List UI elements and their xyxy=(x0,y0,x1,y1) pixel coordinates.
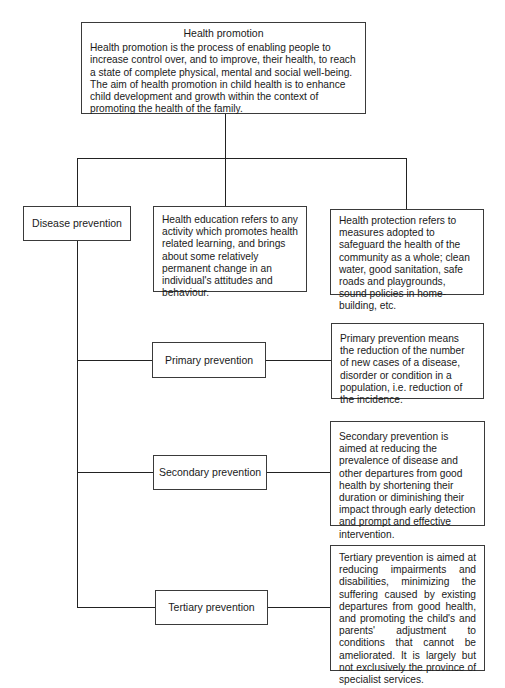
primary-prevention-text: Primary prevention means the reduction o… xyxy=(340,333,475,406)
connector-secondary-to-desc xyxy=(267,472,330,473)
primary-prevention-description-box: Primary prevention means the reduction o… xyxy=(331,323,484,399)
disease-prevention-label: Disease prevention xyxy=(32,217,122,229)
health-promotion-box: Health promotion Health promotion is the… xyxy=(81,22,366,114)
health-promotion-title: Health promotion xyxy=(90,27,357,39)
connector-tertiary-to-desc xyxy=(268,607,330,608)
health-promotion-text: Health promotion is the process of enabl… xyxy=(90,42,357,115)
tertiary-prevention-description-box: Tertiary prevention is aimed at reducing… xyxy=(330,545,485,671)
secondary-prevention-description-box: Secondary prevention is aimed at reducin… xyxy=(330,421,485,526)
connector-trunk-to-secondary xyxy=(77,472,153,473)
primary-prevention-label: Primary prevention xyxy=(165,354,253,366)
connector-bus-to-protection xyxy=(406,159,407,209)
tertiary-prevention-label: Tertiary prevention xyxy=(168,601,254,613)
health-education-text: Health education refers to any activity … xyxy=(162,214,298,299)
connector-trunk-to-tertiary xyxy=(77,607,155,608)
connector-top-to-bus xyxy=(225,114,226,159)
connector-bus-to-education xyxy=(225,158,226,206)
tertiary-prevention-box: Tertiary prevention xyxy=(155,590,268,625)
connector-horizontal-bus xyxy=(77,158,407,159)
health-protection-text: Health protection refers to measures ado… xyxy=(339,215,475,313)
secondary-prevention-label: Secondary prevention xyxy=(159,466,261,478)
disease-prevention-box: Disease prevention xyxy=(23,206,131,241)
health-protection-box: Health protection refers to measures ado… xyxy=(330,209,484,295)
tertiary-prevention-text: Tertiary prevention is aimed at reducing… xyxy=(339,552,476,686)
connector-trunk-to-primary xyxy=(77,360,152,361)
primary-prevention-box: Primary prevention xyxy=(152,342,266,378)
connector-primary-to-desc xyxy=(266,360,331,361)
secondary-prevention-box: Secondary prevention xyxy=(153,455,267,490)
connector-disease-trunk xyxy=(77,241,78,608)
connector-bus-to-disease xyxy=(77,158,78,206)
secondary-prevention-text: Secondary prevention is aimed at reducin… xyxy=(339,431,476,541)
health-education-box: Health education refers to any activity … xyxy=(153,206,307,292)
